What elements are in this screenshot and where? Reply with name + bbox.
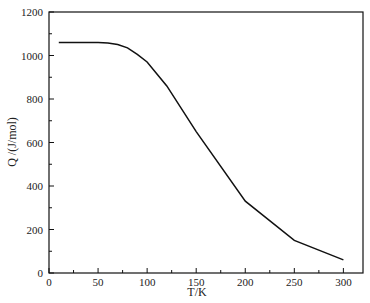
x-axis-label: T/K bbox=[187, 285, 207, 299]
y-tick-label: 600 bbox=[27, 137, 44, 149]
y-tick-label: 200 bbox=[27, 224, 44, 236]
y-tick-label: 800 bbox=[27, 93, 44, 105]
x-tick-label: 300 bbox=[335, 276, 352, 288]
y-tick-label: 1000 bbox=[21, 50, 44, 62]
line-chart: 050100150200250300020040060080010001200 … bbox=[0, 0, 370, 303]
x-tick-label: 100 bbox=[139, 276, 156, 288]
x-tick-label: 0 bbox=[46, 276, 52, 288]
x-tick-label: 250 bbox=[286, 276, 303, 288]
series-line bbox=[59, 43, 344, 260]
y-tick-label: 0 bbox=[38, 267, 44, 279]
x-tick-label: 50 bbox=[93, 276, 105, 288]
plot-frame bbox=[49, 12, 363, 273]
y-tick-label: 1200 bbox=[21, 6, 44, 18]
y-tick-label: 400 bbox=[27, 180, 44, 192]
y-axis-label: Q /(J/mol) bbox=[5, 117, 19, 167]
axes: 050100150200250300020040060080010001200 bbox=[21, 6, 363, 288]
x-tick-label: 200 bbox=[237, 276, 254, 288]
